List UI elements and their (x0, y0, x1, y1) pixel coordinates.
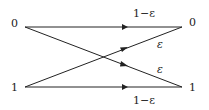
edge-1-0-label: ε (157, 38, 163, 51)
edge-0-1-label: ε (157, 63, 163, 76)
output-0-label: 0 (189, 16, 196, 29)
edge-0-0-label: 1−ε (133, 7, 155, 20)
edge-1-1 (25, 84, 182, 90)
arrow-icon (120, 61, 128, 67)
arrow-icon (120, 47, 128, 52)
edge-1-1-label: 1−ε (133, 94, 155, 107)
arrow-icon (122, 24, 128, 30)
input-0-label: 0 (11, 17, 18, 30)
bsc-diagram: 0 1 0 1 1−ε ε ε 1−ε (0, 0, 209, 110)
output-1-label: 1 (189, 81, 196, 94)
edge-0-0 (25, 24, 182, 30)
arrow-icon (122, 84, 128, 90)
input-1-label: 1 (11, 81, 18, 94)
